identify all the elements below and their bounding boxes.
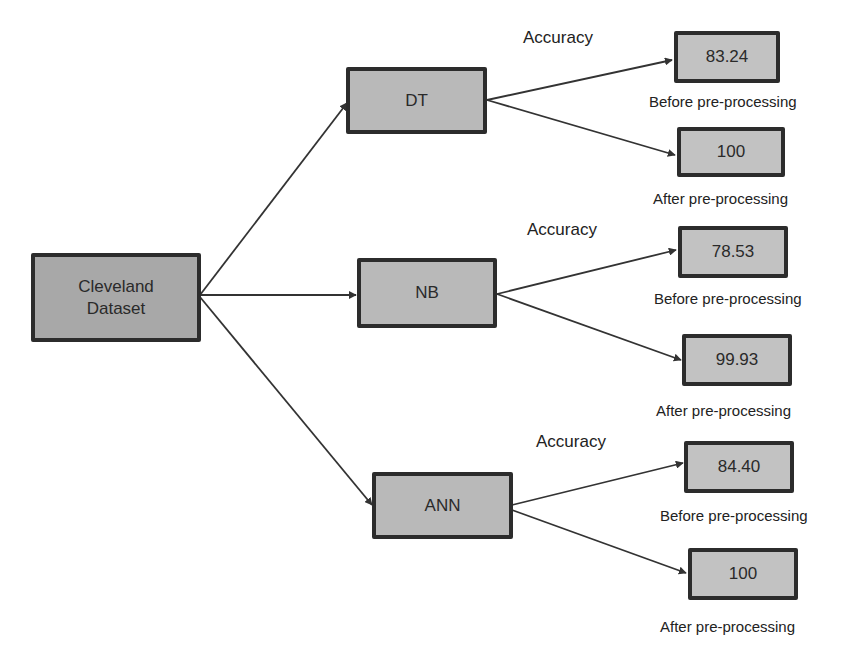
nb-before-value: 78.53	[712, 241, 755, 262]
node-dt: DT	[346, 67, 487, 134]
ann-after-value: 100	[729, 563, 757, 584]
root-label-line2: Dataset	[87, 298, 146, 319]
nb-after-value-box: 99.93	[682, 334, 792, 386]
ann-accuracy-label: Accuracy	[536, 432, 606, 452]
flow-diagram: Cleveland Dataset DT NB ANN Accuracy Acc…	[0, 0, 851, 661]
node-ann-label: ANN	[425, 495, 461, 516]
ann-before-value-box: 84.40	[684, 441, 794, 493]
nb-before-value-box: 78.53	[678, 226, 788, 278]
node-nb-label: NB	[415, 282, 439, 303]
dt-before-value: 83.24	[706, 46, 749, 67]
node-ann: ANN	[372, 472, 513, 539]
ann-before-caption: Before pre-processing	[660, 507, 808, 524]
edge-root-to-ann	[200, 297, 372, 505]
edge-ann-to-before	[512, 463, 683, 505]
dt-accuracy-label: Accuracy	[523, 28, 593, 48]
nb-after-value: 99.93	[716, 349, 759, 370]
nb-accuracy-label: Accuracy	[527, 220, 597, 240]
dt-after-value-box: 100	[677, 127, 785, 177]
root-label-line1: Cleveland	[78, 276, 154, 297]
ann-after-value-box: 100	[688, 548, 798, 600]
node-dt-label: DT	[405, 90, 428, 111]
node-cleveland-dataset: Cleveland Dataset	[31, 253, 201, 342]
edge-nb-to-before	[497, 250, 676, 294]
dt-before-caption: Before pre-processing	[649, 93, 797, 110]
edge-dt-to-after	[487, 100, 675, 155]
nb-after-caption: After pre-processing	[656, 402, 791, 419]
edge-root-to-dt	[200, 103, 347, 295]
node-nb: NB	[357, 258, 497, 328]
dt-after-caption: After pre-processing	[653, 190, 788, 207]
ann-before-value: 84.40	[718, 456, 761, 477]
dt-before-value-box: 83.24	[674, 31, 780, 83]
nb-before-caption: Before pre-processing	[654, 290, 802, 307]
ann-after-caption: After pre-processing	[660, 618, 795, 635]
edge-dt-to-before	[487, 60, 672, 100]
dt-after-value: 100	[717, 141, 745, 162]
